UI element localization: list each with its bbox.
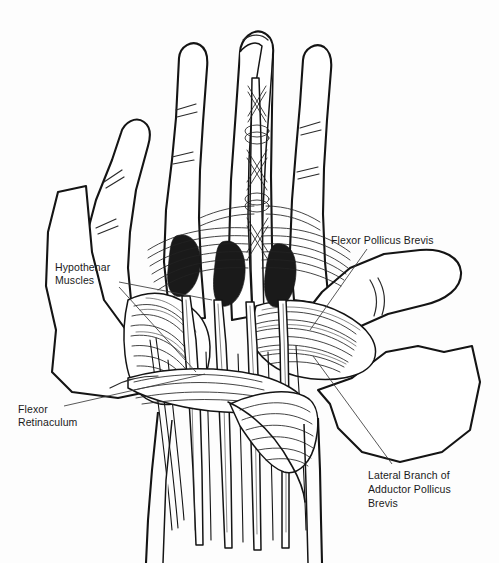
label-flexor-pollicus-brevis: Flexor Pollicus Brevis: [331, 234, 434, 248]
label-adductor-line1: Lateral Branch of: [368, 469, 450, 483]
label-adductor-line2: Adductor Pollicus: [368, 483, 451, 497]
label-hypothenar-muscles-line2: Muscles: [55, 274, 94, 288]
label-flexor-retinaculum-line1: Flexor: [18, 403, 48, 417]
label-hypothenar-muscles-line1: Hypothenar: [55, 261, 110, 275]
label-flexor-retinaculum-line2: Retinaculum: [18, 416, 77, 430]
anatomy-figure: Flexor Pollicus Brevis Hypothenar Muscle…: [0, 0, 499, 563]
label-adductor-line3: Brevis: [368, 497, 398, 511]
